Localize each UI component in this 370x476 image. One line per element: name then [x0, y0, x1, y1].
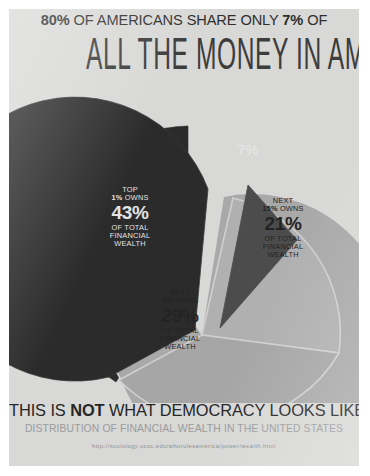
pie-chart: TOP 1% OWNS 43% OF TOTAL FINANCIAL WEALT…	[9, 85, 359, 403]
source-url[interactable]: http://sociology.ucsc.edu/whorulesameric…	[9, 443, 359, 449]
header-line-1-text-b: OF	[303, 12, 327, 28]
pie-chart-svg	[9, 85, 359, 403]
header-line-1-text-a: OF AMERICANS SHARE ONLY	[70, 12, 283, 28]
footer-subtitle: DISTRIBUTION OF FINANCIAL WEALTH IN THE …	[9, 423, 359, 434]
header-line-1: 80% OF AMERICANS SHARE ONLY 7% OF	[9, 12, 359, 28]
footer-tagline: THIS IS NOT WHAT DEMOCRACY LOOKS LIKE	[9, 401, 359, 420]
header-stat-7-percent: 7%	[282, 12, 303, 28]
header-stat-80-percent: 80%	[41, 12, 70, 28]
footer-tagline-part-1: THIS IS	[9, 401, 70, 419]
page-title: ALL THE MONEY IN AMERICA	[86, 31, 282, 77]
footer-tagline-part-2: WHAT DEMOCRACY LOOKS LIKE	[104, 401, 359, 419]
infographic-poster: 80% OF AMERICANS SHARE ONLY 7% OF ALL TH…	[9, 9, 359, 466]
footer-tagline-emphasis: NOT	[70, 401, 104, 419]
